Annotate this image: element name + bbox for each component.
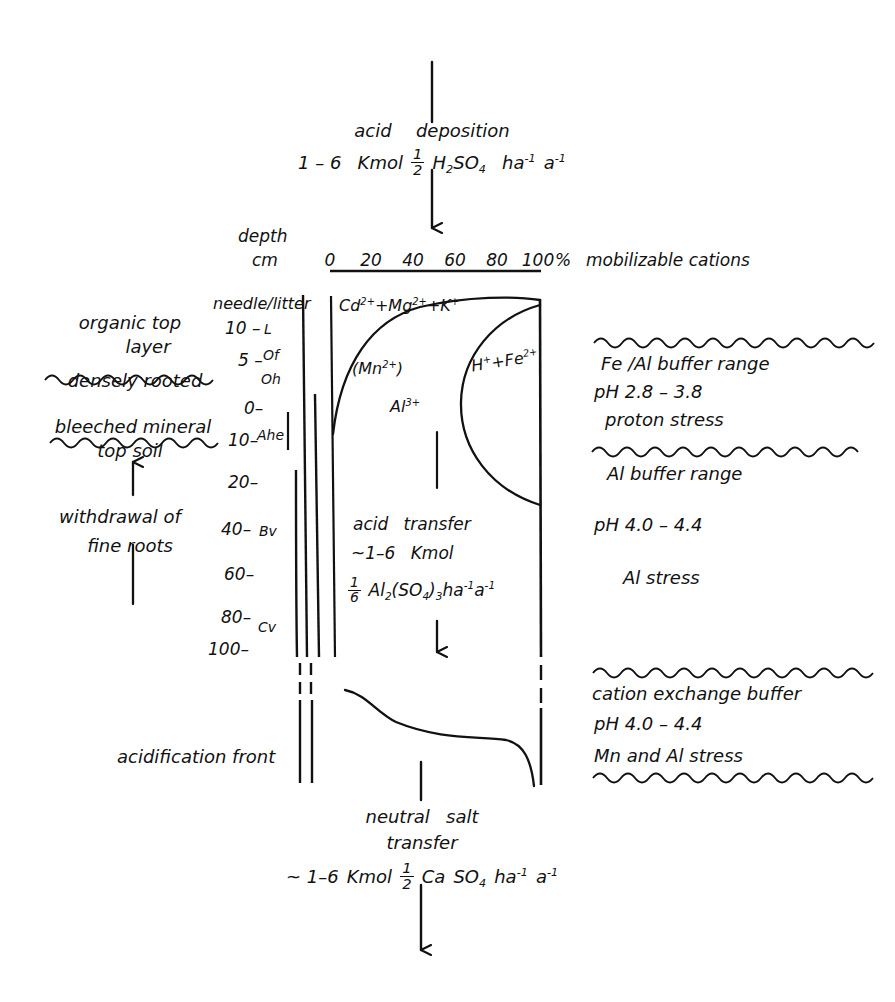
left-annotation-densely-rooted: densely rooted <box>68 372 203 391</box>
depth-label-0: 0– <box>244 400 263 418</box>
species-aluminium: Al3+ <box>390 398 420 416</box>
neutral-salt-subheading: transfer <box>386 834 457 853</box>
left-annotation-organic-line1: organic top <box>79 314 181 333</box>
deposition-range: 1 – 6 <box>298 152 341 173</box>
lower-exchange-curve <box>345 690 534 786</box>
diagram-canvas: aciddeposition 1 – 6Kmol12H2SO4ha-1a-1 d… <box>0 0 895 1002</box>
neutral-salt-half-fraction: 12 <box>400 861 413 892</box>
axis-percent-symbol: % <box>555 252 571 270</box>
axis-tick-100: 100 <box>522 252 554 270</box>
acid-deposition-heading: aciddeposition <box>354 122 509 141</box>
acid-deposition-formula: 1 – 6Kmol12H2SO4ha-1a-1 <box>298 147 566 178</box>
depth-label-60: 60– <box>224 566 254 584</box>
deposition-half-fraction: 12 <box>411 147 424 178</box>
acid-deposition-word-acid: acid <box>354 120 391 141</box>
depth-label-needle-litter: needle/litter <box>213 296 311 313</box>
wavy-right-1 <box>594 339 874 348</box>
horizon-label-Bv: Bv <box>259 524 277 539</box>
horizon-label-Cv: Cv <box>258 620 276 635</box>
axis-depth-label: depth <box>238 228 287 246</box>
depth-label-20: 20– <box>228 474 258 492</box>
left-annotation-bleeched-line1: bleeched mineral <box>55 418 212 437</box>
deposition-rate-ha: ha <box>502 152 524 173</box>
right-annotation-fe-al-ph: pH 2.8 – 3.8 <box>594 383 702 402</box>
species-manganese: (Mn2+) <box>352 360 403 378</box>
wavy-right-3 <box>593 669 873 678</box>
depth-label-10-upper: 10 – <box>225 320 261 338</box>
axis-tick-60: 60 <box>444 252 466 270</box>
horizon-label-Of: Of <box>263 348 279 363</box>
right-annotation-proton-stress: proton stress <box>605 411 724 430</box>
depth-label-10-lower: 10– <box>228 432 258 450</box>
axis-tick-0: 0 <box>325 252 336 270</box>
left-annotation-organic-line2: layer <box>125 338 170 357</box>
horizon-label-L: L <box>264 322 272 337</box>
deposition-species-h: H <box>433 152 447 173</box>
deposition-unit: Kmol <box>358 152 403 173</box>
right-annotation-al-buffer: Al buffer range <box>607 465 742 484</box>
wavy-right-4 <box>593 774 873 783</box>
acid-transfer-sixth-fraction: 16 <box>348 576 361 605</box>
left-annotation-acidification-front: acidification front <box>117 748 275 767</box>
species-base-cations: Cd2++Mg2++K+ <box>339 297 459 315</box>
depth-label-5: 5 – <box>238 352 263 370</box>
plot-left-edge <box>331 296 335 657</box>
right-annotation-al-ph: pH 4.0 – 4.4 <box>594 516 702 535</box>
axis-tick-20: 20 <box>360 252 382 270</box>
axis-tick-80: 80 <box>486 252 508 270</box>
depth-label-100: 100– <box>208 641 249 659</box>
axis-unit-label: cm <box>252 252 278 270</box>
profile-bar-inner <box>296 470 297 657</box>
horizon-label-Oh: Oh <box>261 372 281 387</box>
plot-right-edge <box>540 299 541 657</box>
acid-transfer-formula: 16Al2(SO4)3ha-1a-1 <box>348 576 495 605</box>
horizon-label-Ahe: Ahe <box>257 428 284 443</box>
right-annotation-fe-al-buffer: Fe /Al buffer range <box>601 355 770 374</box>
right-annotation-cec-buffer: cation exchange buffer <box>592 685 801 704</box>
profile-bar-mid <box>315 394 319 657</box>
left-annotation-withdrawal-line1: withdrawal of <box>59 508 181 527</box>
acid-deposition-word-deposition: deposition <box>416 120 510 141</box>
deposition-rate-a: a <box>544 152 555 173</box>
right-annotation-cec-stress: Mn and Al stress <box>594 747 743 766</box>
acid-transfer-heading: acidtransfer <box>353 516 471 534</box>
deposition-species-so: SO <box>453 152 479 173</box>
axis-title: mobilizable cations <box>586 252 750 270</box>
neutral-salt-heading: neutralsalt <box>365 808 478 827</box>
depth-label-40: 40– <box>221 521 251 539</box>
depth-label-80: 80– <box>221 609 251 627</box>
proton-iron-curve <box>461 305 540 505</box>
right-annotation-al-stress: Al stress <box>623 569 700 588</box>
wavy-right-2 <box>592 448 858 457</box>
left-annotation-bleeched-line2: top soil <box>97 442 163 461</box>
neutral-salt-formula: ~ 1–6Kmol12CaSO4ha-1a-1 <box>286 861 558 892</box>
profile-bar-outer <box>303 295 307 657</box>
left-annotation-withdrawal-line2: fine roots <box>87 537 173 556</box>
acid-transfer-amount: ~1–6Kmol <box>351 545 454 563</box>
right-annotation-cec-ph: pH 4.0 – 4.4 <box>594 715 702 734</box>
axis-tick-40: 40 <box>402 252 424 270</box>
